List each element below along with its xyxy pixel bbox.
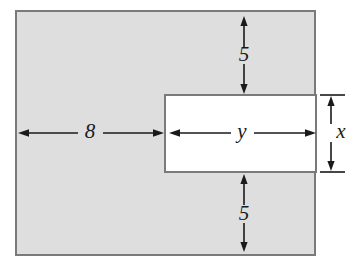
dimension-label-inner-height: x — [335, 119, 346, 143]
arrowhead-down-icon — [327, 161, 334, 171]
dimension-inner-height: x — [320, 95, 346, 172]
dimension-label-bottom-margin: 5 — [239, 201, 250, 225]
dimension-label-inner-width: y — [235, 119, 247, 143]
geometry-diagram-figure: 5 5 8 y — [0, 0, 351, 271]
diagram-canvas: 5 5 8 y — [0, 0, 351, 271]
dimension-label-left-margin: 8 — [85, 119, 96, 143]
dimension-label-top-margin: 5 — [239, 42, 250, 66]
arrowhead-up-icon — [327, 96, 334, 106]
